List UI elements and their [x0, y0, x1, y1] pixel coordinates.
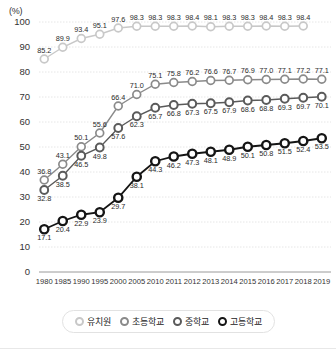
data-point-marker[interactable] — [299, 75, 307, 83]
data-point-marker[interactable] — [318, 93, 326, 101]
data-point-marker[interactable] — [170, 79, 178, 87]
y-axis-tick-label: 100 — [14, 16, 30, 27]
x-axis-tick-label: 1985 — [54, 277, 71, 286]
y-axis-tick-label: 60 — [19, 116, 30, 127]
data-point-marker[interactable] — [188, 22, 196, 30]
data-point-marker[interactable] — [299, 137, 307, 145]
data-point-value-label: 32.8 — [37, 194, 51, 203]
data-point-marker[interactable] — [244, 76, 252, 84]
data-point-value-label: 71.0 — [130, 81, 144, 90]
data-point-value-label: 67.3 — [185, 108, 199, 117]
data-point-marker[interactable] — [281, 75, 289, 83]
data-point-marker[interactable] — [170, 101, 178, 109]
data-point-marker[interactable] — [262, 22, 270, 30]
data-point-value-label: 46.5 — [74, 160, 88, 169]
data-point-marker[interactable] — [281, 22, 289, 30]
data-point-marker[interactable] — [318, 75, 326, 83]
data-point-marker[interactable] — [40, 186, 48, 194]
x-axis-tick-label: 2016 — [258, 277, 275, 286]
data-point-marker[interactable] — [207, 77, 215, 85]
bottom-divider — [0, 348, 336, 349]
data-point-marker[interactable] — [40, 176, 48, 184]
data-point-marker[interactable] — [281, 139, 289, 147]
x-axis-tick-label: 2017 — [276, 277, 293, 286]
x-axis-tick-label: 2011 — [166, 277, 182, 286]
data-point-marker[interactable] — [207, 99, 215, 107]
legend-item-middle-school[interactable]: 중학교 — [173, 315, 209, 328]
data-point-marker[interactable] — [59, 217, 67, 225]
data-point-marker[interactable] — [207, 148, 215, 156]
data-point-marker[interactable] — [59, 172, 67, 180]
data-point-marker[interactable] — [188, 100, 196, 108]
data-point-marker[interactable] — [133, 91, 141, 99]
data-point-marker[interactable] — [40, 225, 48, 233]
data-point-marker[interactable] — [151, 157, 159, 165]
legend-item-elementary[interactable]: 초등학교 — [120, 315, 164, 328]
y-axis-tick-label: 10 — [19, 241, 30, 252]
data-point-marker[interactable] — [96, 129, 104, 137]
data-point-value-label: 48.9 — [222, 154, 236, 163]
data-point-marker[interactable] — [188, 150, 196, 158]
data-point-marker[interactable] — [244, 22, 252, 30]
data-point-marker[interactable] — [59, 43, 67, 51]
x-axis-tick-label: 2015 — [239, 277, 256, 286]
data-point-marker[interactable] — [151, 80, 159, 88]
data-point-marker[interactable] — [170, 22, 178, 30]
data-point-value-label: 98.3 — [167, 13, 181, 22]
data-point-marker[interactable] — [207, 23, 215, 31]
data-point-marker[interactable] — [225, 22, 233, 30]
data-point-marker[interactable] — [40, 55, 48, 63]
data-point-value-label: 98.3 — [130, 13, 144, 22]
data-point-marker[interactable] — [133, 173, 141, 181]
data-point-value-label: 76.7 — [222, 67, 236, 76]
data-point-marker[interactable] — [114, 102, 122, 110]
data-point-marker[interactable] — [77, 143, 85, 151]
data-point-marker[interactable] — [96, 30, 104, 38]
data-point-marker[interactable] — [114, 194, 122, 202]
data-point-marker[interactable] — [244, 97, 252, 105]
data-point-marker[interactable] — [133, 22, 141, 30]
data-point-value-label: 23.9 — [93, 216, 107, 225]
data-point-value-label: 38.1 — [130, 181, 144, 190]
data-point-marker[interactable] — [114, 24, 122, 32]
legend-marker-circle-icon — [173, 317, 182, 326]
data-point-value-label: 69.7 — [296, 102, 310, 111]
data-point-marker[interactable] — [244, 143, 252, 151]
data-point-marker[interactable] — [225, 76, 233, 84]
data-point-value-label: 98.3 — [241, 13, 255, 22]
x-axis-tick-label: 2012 — [184, 277, 201, 286]
data-point-marker[interactable] — [114, 124, 122, 132]
data-point-marker[interactable] — [151, 22, 159, 30]
data-point-marker[interactable] — [262, 96, 270, 104]
data-point-value-label: 66.4 — [111, 93, 125, 102]
legend-item-kindergarten[interactable]: 유치원 — [75, 315, 111, 328]
data-point-marker[interactable] — [281, 95, 289, 103]
x-axis-tick-label: 2000 — [110, 277, 127, 286]
data-point-marker[interactable] — [77, 211, 85, 219]
data-point-marker[interactable] — [299, 22, 307, 30]
data-point-marker[interactable] — [262, 76, 270, 84]
data-point-value-label: 51.5 — [278, 147, 292, 156]
legend-box: 유치원 초등학교 중학교 고등학교 — [62, 310, 275, 333]
data-point-marker[interactable] — [225, 146, 233, 154]
data-point-marker[interactable] — [77, 35, 85, 43]
data-point-marker[interactable] — [170, 152, 178, 160]
data-point-marker[interactable] — [133, 112, 141, 120]
line-chart: (%) 010203040506070809010019801985199019… — [0, 0, 336, 359]
data-point-value-label: 98.1 — [204, 13, 218, 22]
data-point-marker[interactable] — [262, 141, 270, 149]
data-point-marker[interactable] — [318, 134, 326, 142]
data-point-marker[interactable] — [225, 98, 233, 106]
data-point-value-label: 57.6 — [111, 132, 125, 141]
data-point-marker[interactable] — [299, 94, 307, 102]
data-point-marker[interactable] — [77, 152, 85, 160]
data-point-value-label: 76.9 — [241, 66, 255, 75]
data-point-marker[interactable] — [96, 144, 104, 152]
legend-item-high-school[interactable]: 고등학교 — [218, 315, 262, 328]
data-point-marker[interactable] — [188, 78, 196, 86]
data-point-marker[interactable] — [59, 160, 67, 168]
data-point-marker[interactable] — [151, 104, 159, 112]
data-point-marker[interactable] — [96, 208, 104, 216]
x-axis-tick-label: 2005 — [128, 277, 145, 286]
data-point-value-label: 48.1 — [204, 156, 218, 165]
